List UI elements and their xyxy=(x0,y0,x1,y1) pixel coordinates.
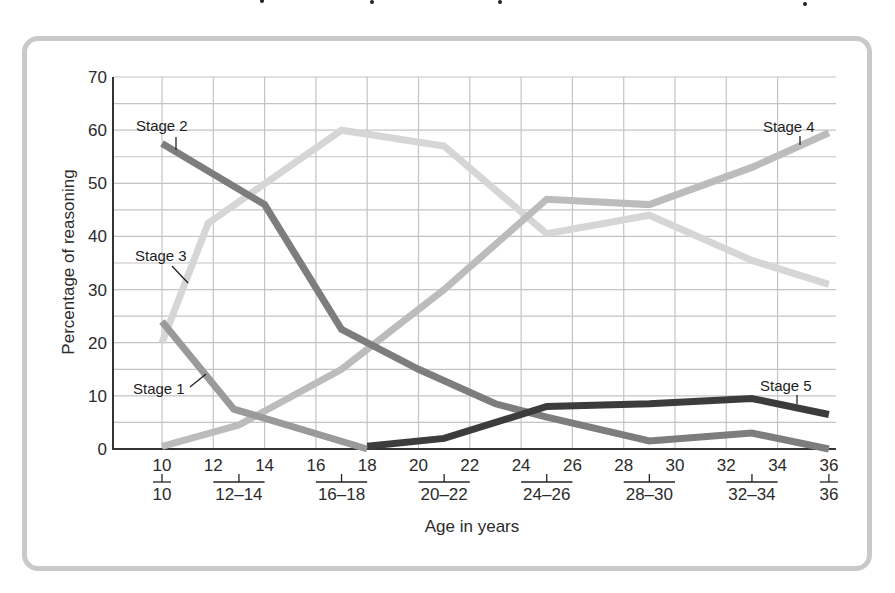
age-group-label: 36 xyxy=(819,485,838,504)
age-group-label: 16–18 xyxy=(318,485,365,504)
x-axis-title: Age in years xyxy=(425,517,520,536)
age-group-label: 24–26 xyxy=(523,485,570,504)
y-tick-label: 70 xyxy=(88,68,107,87)
stage-3-label: Stage 3 xyxy=(135,247,187,264)
y-axis-ticks: 010203040506070 xyxy=(88,68,107,459)
age-group-label: 20–22 xyxy=(421,485,468,504)
x-tick-label: 24 xyxy=(512,456,531,475)
x-tick-label: 18 xyxy=(358,456,377,475)
age-group-label: 28–30 xyxy=(626,485,673,504)
x-tick-label: 30 xyxy=(666,456,685,475)
age-group-label: 12–14 xyxy=(215,485,262,504)
x-tick-label: 26 xyxy=(563,456,582,475)
stage-2-label: Stage 2 xyxy=(136,117,188,134)
y-tick-label: 50 xyxy=(88,174,107,193)
x-tick-label: 14 xyxy=(255,456,274,475)
x-tick-label: 20 xyxy=(409,456,428,475)
stage-4-label: Stage 4 xyxy=(763,118,815,135)
y-tick-label: 20 xyxy=(88,334,107,353)
x-tick-label: 36 xyxy=(819,456,838,475)
y-tick-label: 0 xyxy=(98,440,107,459)
x-tick-label: 34 xyxy=(768,456,787,475)
x-tick-label: 22 xyxy=(460,456,479,475)
y-tick-label: 60 xyxy=(88,121,107,140)
x-tick-label: 10 xyxy=(153,456,172,475)
y-axis-title: Percentage of reasoning xyxy=(59,169,78,354)
y-tick-label: 10 xyxy=(88,387,107,406)
age-group-labels: 1012–1416–1820–2224–2628–3032–3436 xyxy=(153,474,839,504)
age-group-label: 10 xyxy=(153,485,172,504)
x-tick-label: 28 xyxy=(614,456,633,475)
stage-1-label: Stage 1 xyxy=(133,380,185,397)
age-group-label: 32–34 xyxy=(728,485,775,504)
x-tick-label: 16 xyxy=(306,456,325,475)
x-tick-label: 32 xyxy=(717,456,736,475)
stage-5-label: Stage 5 xyxy=(760,377,812,394)
y-tick-label: 40 xyxy=(88,227,107,246)
line-chart: 010203040506070 101214161820222426283032… xyxy=(0,0,895,593)
x-axis-ticks: 1012141618202224262830323436 xyxy=(153,456,839,475)
y-tick-label: 30 xyxy=(88,281,107,300)
annotation-stage-1: Stage 1 xyxy=(133,374,206,397)
x-tick-label: 12 xyxy=(204,456,223,475)
